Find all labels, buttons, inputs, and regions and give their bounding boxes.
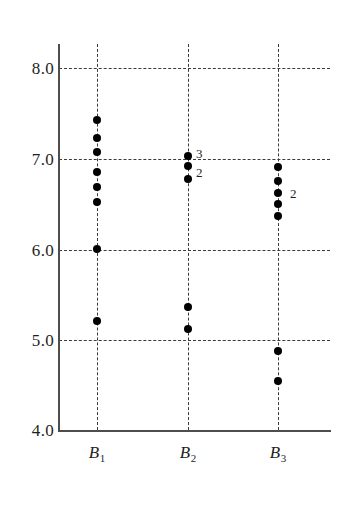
plot-area: 8.0 7.0 6.0 5.0 4.0 B1 B2 B3 3 2 2 — [0, 0, 345, 510]
x-axis-line — [58, 430, 331, 432]
gridline-x-b1 — [97, 44, 98, 430]
y-axis-line — [58, 44, 60, 432]
count-annotation-b3: 2 — [290, 187, 297, 200]
data-point — [93, 245, 101, 253]
y-tick-label-7: 7.0 — [6, 151, 54, 168]
data-point — [93, 183, 101, 191]
data-point — [184, 303, 192, 311]
x-tick-b3-base: B — [270, 443, 280, 462]
data-point — [274, 189, 282, 197]
data-point — [93, 148, 101, 156]
x-tick-b1-base: B — [89, 443, 99, 462]
y-tick-label-8: 8.0 — [6, 60, 54, 77]
x-tick-label-b3: B3 — [243, 444, 313, 464]
gridline-x-b3 — [278, 44, 279, 430]
x-tick-b2-base: B — [180, 443, 190, 462]
data-point — [93, 168, 101, 176]
y-tick-label-5: 5.0 — [6, 332, 54, 349]
count-annotation-b2-top: 3 — [196, 147, 203, 160]
data-point — [274, 377, 282, 385]
data-point — [274, 177, 282, 185]
data-point — [274, 212, 282, 220]
data-point — [274, 200, 282, 208]
x-tick-b2-sub: 2 — [191, 452, 197, 464]
x-tick-b1-sub: 1 — [100, 452, 106, 464]
data-point — [93, 198, 101, 206]
y-tick-label-4: 4.0 — [6, 422, 54, 439]
count-annotation-b2-second: 2 — [196, 166, 203, 179]
gridline-y-5 — [59, 340, 330, 341]
x-tick-label-b1: B1 — [62, 444, 132, 464]
data-point — [184, 162, 192, 170]
data-point — [93, 317, 101, 325]
data-point — [184, 152, 192, 160]
gridline-y-7 — [59, 159, 330, 160]
data-point — [184, 325, 192, 333]
gridline-y-8 — [59, 68, 330, 69]
data-point — [274, 163, 282, 171]
x-tick-b3-sub: 3 — [281, 452, 287, 464]
data-point — [93, 116, 101, 124]
y-tick-label-6: 6.0 — [6, 242, 54, 259]
data-point — [93, 134, 101, 142]
dot-plot-figure: 8.0 7.0 6.0 5.0 4.0 B1 B2 B3 3 2 2 — [0, 0, 345, 510]
data-point — [184, 175, 192, 183]
gridline-x-b2 — [188, 44, 189, 430]
x-tick-label-b2: B2 — [153, 444, 223, 464]
data-point — [274, 347, 282, 355]
